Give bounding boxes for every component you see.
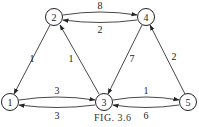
directed-graph: 8 2 1 1 7 2 3 3 1 6 1 2 3 4 5 <box>0 0 199 127</box>
svg-text:5: 5 <box>186 97 191 108</box>
edge-3-5 <box>113 97 179 100</box>
edge-1-3 <box>19 97 95 100</box>
edge-3-1 <box>19 105 95 108</box>
svg-text:4: 4 <box>144 12 149 23</box>
edge-5-3 <box>113 105 179 108</box>
edge-2-4 <box>63 12 137 15</box>
svg-text:1: 1 <box>8 97 13 108</box>
node-5: 5 <box>180 94 197 111</box>
figure-caption: FIG. 3.6 <box>94 112 132 123</box>
weight-3-2: 1 <box>69 53 74 64</box>
weight-2-1: 1 <box>30 53 35 64</box>
node-1: 1 <box>2 94 19 111</box>
weight-3-1: 3 <box>55 110 60 121</box>
weight-3-5: 1 <box>144 85 149 96</box>
node-2: 2 <box>46 9 63 26</box>
edge-4-3 <box>108 25 142 94</box>
edge-4-2 <box>63 20 137 23</box>
svg-text:2: 2 <box>52 12 57 23</box>
edge-3-2 <box>60 25 99 94</box>
edge-5-4 <box>150 25 185 94</box>
weight-1-3: 3 <box>55 85 60 96</box>
weight-5-4: 2 <box>172 51 177 62</box>
weight-4-2: 2 <box>98 24 103 35</box>
node-3: 3 <box>96 94 113 111</box>
node-4: 4 <box>138 9 155 26</box>
weight-5-3: 6 <box>144 110 149 121</box>
weight-2-4: 8 <box>98 0 103 11</box>
svg-text:3: 3 <box>102 97 107 108</box>
weight-4-3: 7 <box>130 53 135 64</box>
